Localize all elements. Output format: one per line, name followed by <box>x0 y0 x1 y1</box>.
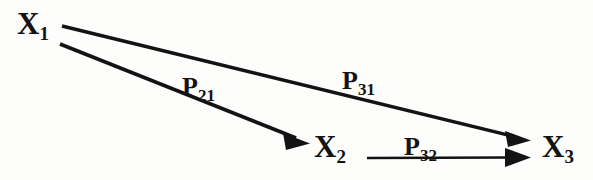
arrow-p32-head <box>505 148 531 167</box>
path-diagram-canvas: X1 X2 X3 P21 P31 P32 <box>0 0 593 180</box>
path-diagram-svg <box>0 0 593 180</box>
node-x2-base: X <box>314 129 336 164</box>
path-p32-subscript: 32 <box>420 146 437 165</box>
arrow-p32 <box>367 148 531 167</box>
path-p32-base: P <box>404 132 420 161</box>
path-label-p32: P32 <box>404 134 437 160</box>
arrow-p31-line <box>62 26 516 137</box>
arrow-p31-head <box>505 131 531 147</box>
path-p21-base: P <box>182 72 198 101</box>
arrow-p21-head <box>283 133 310 150</box>
node-x2-subscript: 2 <box>336 146 346 167</box>
path-p21-subscript: 21 <box>198 86 215 105</box>
arrow-p32-line <box>367 158 509 159</box>
node-x1-base: X <box>17 6 39 41</box>
node-label-x3: X3 <box>542 131 574 162</box>
node-x1-subscript: 1 <box>39 23 49 44</box>
node-x3-base: X <box>542 129 564 164</box>
path-p31-subscript: 31 <box>358 80 375 99</box>
node-x3-subscript: 3 <box>564 146 574 167</box>
node-label-x1: X1 <box>17 8 49 39</box>
path-p31-base: P <box>342 66 358 95</box>
arrow-p31 <box>62 26 531 147</box>
node-label-x2: X2 <box>314 131 346 162</box>
path-label-p31: P31 <box>342 68 375 94</box>
path-label-p21: P21 <box>182 74 215 100</box>
arrow-p21-line <box>60 44 296 138</box>
